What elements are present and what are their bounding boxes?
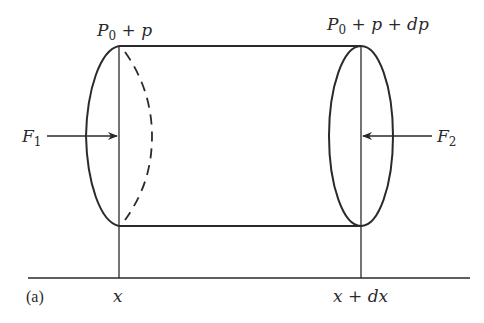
fluid-element-diagram: P0 + p P0 + p + dp F1 F2 (a) x x + dx (0, 0, 484, 323)
left-face-back-arc-dashed (125, 52, 152, 220)
left-force-label: F1 (21, 126, 41, 149)
left-position-label: x (113, 286, 123, 306)
left-pressure-label: P0 + p (96, 20, 152, 43)
right-pressure-label: P0 + p + dp (326, 14, 429, 37)
panel-label: (a) (26, 288, 44, 306)
right-position-label: x + dx (333, 286, 389, 306)
right-force-label: F2 (436, 126, 456, 149)
